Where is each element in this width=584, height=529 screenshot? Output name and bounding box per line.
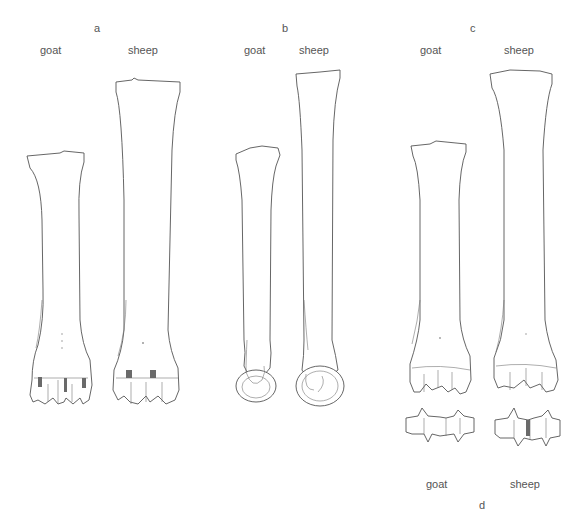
panel-a-goat-bone [27,151,92,404]
panel-b-goat-bone [236,146,280,402]
panel-c-goat-bone [410,141,471,394]
panel-a-sheep-bone [113,78,180,404]
panel-c-sheep-bone [490,70,558,392]
panel-d-goat-condyles [406,408,474,442]
panel-d-sheep-condyles [495,408,560,446]
panel-b-sheep-bone [296,70,344,406]
bone-illustration [0,0,584,529]
